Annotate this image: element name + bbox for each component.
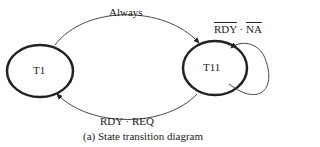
label-dot: · bbox=[237, 23, 246, 35]
state-t11-label: T11 bbox=[203, 61, 220, 73]
label-na-bar: NA bbox=[246, 23, 262, 35]
caption: (a) State transition diagram bbox=[83, 130, 203, 142]
label-rdy-bar: RDY bbox=[214, 23, 237, 35]
arrow-self-loop bbox=[229, 43, 269, 94]
label-self-loop: RDY · NA bbox=[214, 23, 262, 35]
state-t1-label: T1 bbox=[33, 64, 45, 76]
label-always: Always bbox=[109, 6, 143, 18]
arrow-always bbox=[55, 15, 199, 45]
label-rdy-req: RDY · REQ bbox=[100, 115, 154, 127]
